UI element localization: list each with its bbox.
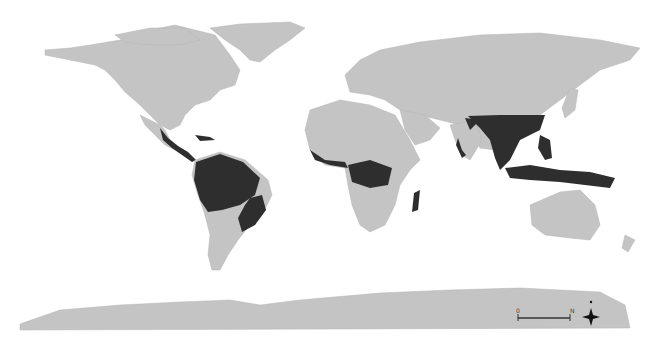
scale-start-label: 0 (516, 307, 520, 314)
arctic-islands (115, 28, 200, 45)
world-map: 0 N (0, 0, 665, 348)
australia (530, 190, 600, 240)
new-zealand (622, 235, 635, 252)
indonesia-forest (505, 165, 615, 188)
philippines-forest (538, 135, 552, 160)
caribbean-forest (195, 135, 215, 141)
india (450, 120, 482, 160)
madagascar-forest (412, 190, 420, 212)
antarctica (20, 288, 630, 330)
scale-end-label: N (570, 307, 575, 314)
